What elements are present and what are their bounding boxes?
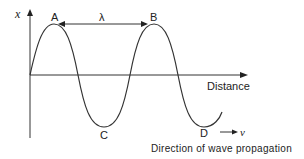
caption: Direction of wave propagation [151,144,292,154]
wave-diagram [0,0,304,159]
y-axis-label: x [15,8,20,20]
velocity-label: v [240,127,245,138]
y-axis-arrow-icon [27,9,33,16]
x-axis-label: Distance [207,81,250,92]
point-b-label: B [150,12,157,23]
point-c-label: C [100,130,108,141]
point-a-label: A [51,12,58,23]
x-axis-arrow-icon [240,72,248,78]
wavelength-label: λ [99,12,105,23]
point-d-label: D [200,128,208,139]
velocity-arrow-icon [232,130,238,135]
wavelength-arrow-left-icon [58,21,65,27]
